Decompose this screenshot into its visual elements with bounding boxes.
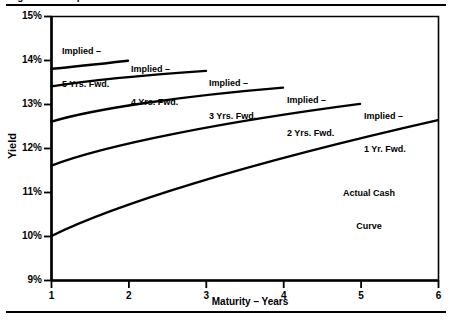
y-tick-label-15: 15% bbox=[0, 11, 42, 21]
label-implied-3yr-fwd: Implied – 3 Yrs. Fwd. bbox=[209, 56, 256, 144]
x-tick-label-6: 6 bbox=[427, 291, 451, 301]
label-implied-1yr-fwd: Implied – 1 Yr. Fwd. bbox=[364, 89, 406, 177]
label-actual-cash-curve: Actual Cash Curve bbox=[324, 166, 414, 254]
label-implied-2yr-fwd-line2: 2 Yrs. Fwd. bbox=[287, 128, 334, 139]
y-tick-label-9: 9% bbox=[0, 275, 42, 285]
label-actual-cash-curve-line1: Actual Cash bbox=[324, 188, 414, 199]
y-axis-title: Yield bbox=[6, 121, 18, 171]
label-implied-1yr-fwd-line2: 1 Yr. Fwd. bbox=[364, 144, 406, 155]
label-implied-5yr-fwd-line2: 5 Yrs. Fwd. bbox=[62, 79, 109, 90]
y-tick-label-10: 10% bbox=[0, 231, 42, 241]
label-implied-2yr-fwd-line1: Implied – bbox=[287, 95, 334, 106]
y-tick-label-13: 13% bbox=[0, 99, 42, 109]
x-tick-label-2: 2 bbox=[117, 291, 141, 301]
label-implied-3yr-fwd-line1: Implied – bbox=[209, 78, 256, 89]
x-axis-title: Maturity – Years bbox=[140, 296, 360, 307]
label-implied-5yr-fwd-line1: Implied – bbox=[62, 46, 109, 57]
chart-container: 15% 14% 13% 12% 11% 10% 9% 1 2 3 4 5 6 M… bbox=[0, 0, 452, 320]
label-implied-2yr-fwd: Implied – 2 Yrs. Fwd. bbox=[287, 73, 334, 161]
label-implied-1yr-fwd-line1: Implied – bbox=[364, 111, 406, 122]
x-tick-label-1: 1 bbox=[40, 291, 64, 301]
label-implied-4yr-fwd: Implied – 4 Yrs. Fwd. bbox=[131, 42, 178, 130]
label-implied-5yr-fwd: Implied – 5 Yrs. Fwd. bbox=[62, 24, 109, 112]
y-tick-label-11: 11% bbox=[0, 187, 42, 197]
label-actual-cash-curve-line2: Curve bbox=[324, 221, 414, 232]
label-implied-4yr-fwd-line2: 4 Yrs. Fwd. bbox=[131, 97, 178, 108]
label-implied-3yr-fwd-line2: 3 Yrs. Fwd. bbox=[209, 111, 256, 122]
label-implied-4yr-fwd-line1: Implied – bbox=[131, 64, 178, 75]
y-tick-label-14: 14% bbox=[0, 55, 42, 65]
